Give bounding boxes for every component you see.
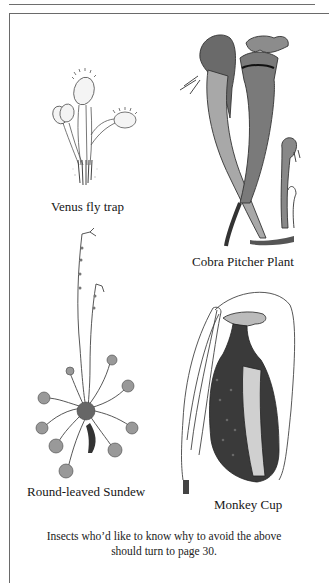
label-cobra-pitcher-plant: Cobra Pitcher Plant	[192, 254, 294, 270]
label-monkey-cup: Monkey Cup	[214, 497, 282, 513]
label-venus-fly-trap: Venus fly trap	[51, 199, 124, 215]
caption: Insects who’d like to know why to avoid …	[30, 529, 298, 559]
caption-line-2: should turn to page 30.	[30, 544, 298, 559]
cobra-pitcher-plant-illustration	[170, 28, 315, 250]
round-leaved-sundew-illustration	[18, 228, 158, 483]
top-rule	[9, 4, 315, 5]
label-round-leaved-sundew: Round-leaved Sundew	[27, 484, 145, 500]
venus-fly-trap-illustration	[45, 65, 145, 195]
monkey-cup-illustration	[175, 280, 315, 495]
caption-line-1: Insects who’d like to know why to avoid …	[30, 529, 298, 544]
